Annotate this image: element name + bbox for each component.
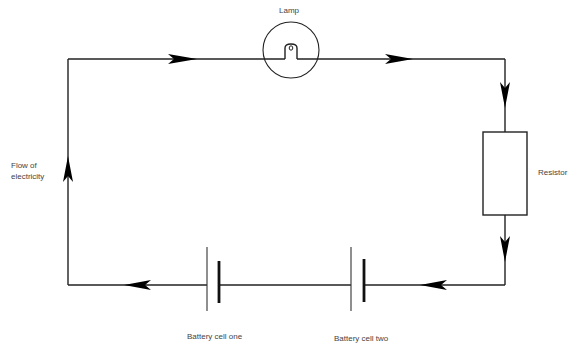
flow-label-line2: electricity [11,171,44,182]
lamp-symbol [263,22,319,78]
battery-cell-one-label: Battery cell one [187,331,242,342]
lamp-filament-loop-icon [289,46,293,50]
circuit-diagram [0,0,580,351]
resistor-label: Resistor [538,167,567,178]
flow-label-line1: Flow of [11,160,37,171]
flow-arrows [63,54,510,290]
battery-cell-one-symbol [207,247,219,311]
circuit-wires [68,59,505,285]
resistor-symbol [483,132,527,215]
battery-cell-two-label: Battery cell two [334,333,388,344]
lamp-label: Lamp [279,5,299,16]
battery-cell-two-symbol [351,247,364,311]
